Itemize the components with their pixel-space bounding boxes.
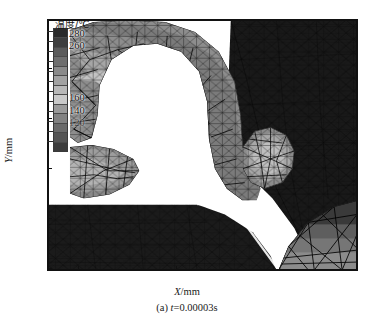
- y-axis-title: Y/mm: [3, 138, 14, 163]
- y-tick-minor: [47, 43, 48, 44]
- x-tick-minor: [137, 270, 138, 271]
- colorbar-tick: [47, 111, 53, 112]
- y-axis-title-var: Y: [3, 157, 14, 163]
- y-tick-inner: [48, 118, 52, 119]
- x-axis-title: X/mm: [174, 286, 200, 297]
- colorbar-tick: [47, 71, 53, 72]
- x-tick-minor: [117, 270, 118, 271]
- colorbar-swatch: [54, 86, 67, 95]
- x-tick-minor: [312, 270, 313, 271]
- colorbar-swatch: [54, 95, 67, 104]
- x-tick-minor: [156, 270, 157, 271]
- colorbar-swatch: [54, 57, 67, 66]
- y-tick-minor: [47, 193, 48, 194]
- x-tick-minor: [254, 270, 255, 271]
- x-tick-minor: [195, 270, 196, 271]
- figure-root: 2.15 2.1 2.05 2 1.95 9.3 9.4 9.5 温度/℃: [0, 0, 374, 322]
- colorbar-tick: [47, 121, 53, 122]
- y-tick-minor: [47, 143, 48, 144]
- colorbar-tick: [47, 81, 53, 82]
- caption-value: =0.00003s: [174, 302, 218, 313]
- x-axis-title-unit: /mm: [181, 286, 200, 297]
- x-tick-minor: [215, 270, 216, 271]
- colorbar-label-280: 280: [69, 28, 85, 39]
- colorbar-tick: [47, 91, 53, 92]
- colorbar-label-140: 140: [69, 105, 85, 116]
- x-tick-inner: [176, 266, 177, 270]
- x-tick-9.5: [273, 270, 274, 271]
- colorbar-swatch: [54, 124, 67, 133]
- temperature-contour-canvas: [48, 20, 357, 270]
- y-tick-inner: [48, 68, 52, 69]
- colorbar-tick: [47, 101, 53, 102]
- x-tick-minor: [293, 270, 294, 271]
- colorbar-tick: [47, 41, 53, 42]
- colorbar-tick: [47, 31, 53, 32]
- colorbar-swatch: [54, 143, 67, 151]
- x-tick-minor: [98, 270, 99, 271]
- colorbar-label-260: 260: [69, 40, 85, 51]
- colorbar-label-160: 160: [69, 92, 85, 103]
- colorbar-swatch: [54, 76, 67, 85]
- y-tick-inner: [48, 168, 52, 169]
- x-tick-minor: [332, 270, 333, 271]
- colorbar-tick: [47, 141, 53, 142]
- colorbar-tick: [47, 131, 53, 132]
- y-tick-inner: [48, 268, 52, 269]
- colorbar-swatch: [54, 133, 67, 142]
- colorbar-swatch: [54, 67, 67, 76]
- colorbar-swatch: [54, 38, 67, 47]
- y-axis-title-unit: /mm: [3, 138, 14, 157]
- y-tick-minor: [47, 93, 48, 94]
- caption-prefix: (a): [156, 302, 168, 313]
- y-tick-minor: [47, 243, 48, 244]
- colorbar-tick: [47, 61, 53, 62]
- y-tick-inner: [48, 218, 52, 219]
- x-tick-inner: [78, 266, 79, 270]
- colorbar-swatch: [54, 105, 67, 114]
- x-tick-9.4: [176, 270, 177, 271]
- colorbar-swatch: [54, 48, 67, 57]
- x-tick-minor: [234, 270, 235, 271]
- x-tick-9.3: [78, 270, 79, 271]
- figure-caption: (a) t=0.00003s: [156, 302, 217, 313]
- plot-area: 2.15 2.1 2.05 2 1.95 9.3 9.4 9.5: [47, 19, 358, 271]
- colorbar-tick: [47, 51, 53, 52]
- x-tick-minor: [351, 270, 352, 271]
- colorbar-swatch: [54, 114, 67, 123]
- x-tick-inner: [273, 266, 274, 270]
- x-tick-minor: [59, 270, 60, 271]
- colorbar-legend: [53, 28, 68, 152]
- colorbar-label-120: 120: [69, 117, 85, 128]
